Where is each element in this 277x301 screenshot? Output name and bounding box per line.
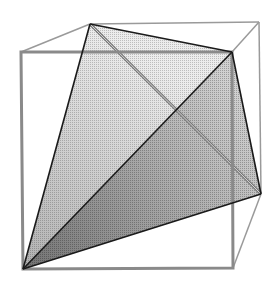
cube-tetrahedron-diagram bbox=[0, 0, 277, 301]
